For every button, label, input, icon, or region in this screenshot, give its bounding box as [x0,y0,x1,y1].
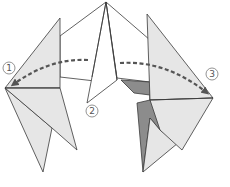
step-label-2-text: 2 [89,106,95,116]
step-label-1: 1 [3,62,15,74]
step-label-2: 2 [86,105,98,117]
step-label-1-text: 1 [6,63,12,73]
step-label-3: 3 [206,68,218,80]
step-label-3-text: 3 [209,69,215,79]
origami-diagram: 1 2 3 [0,0,230,187]
